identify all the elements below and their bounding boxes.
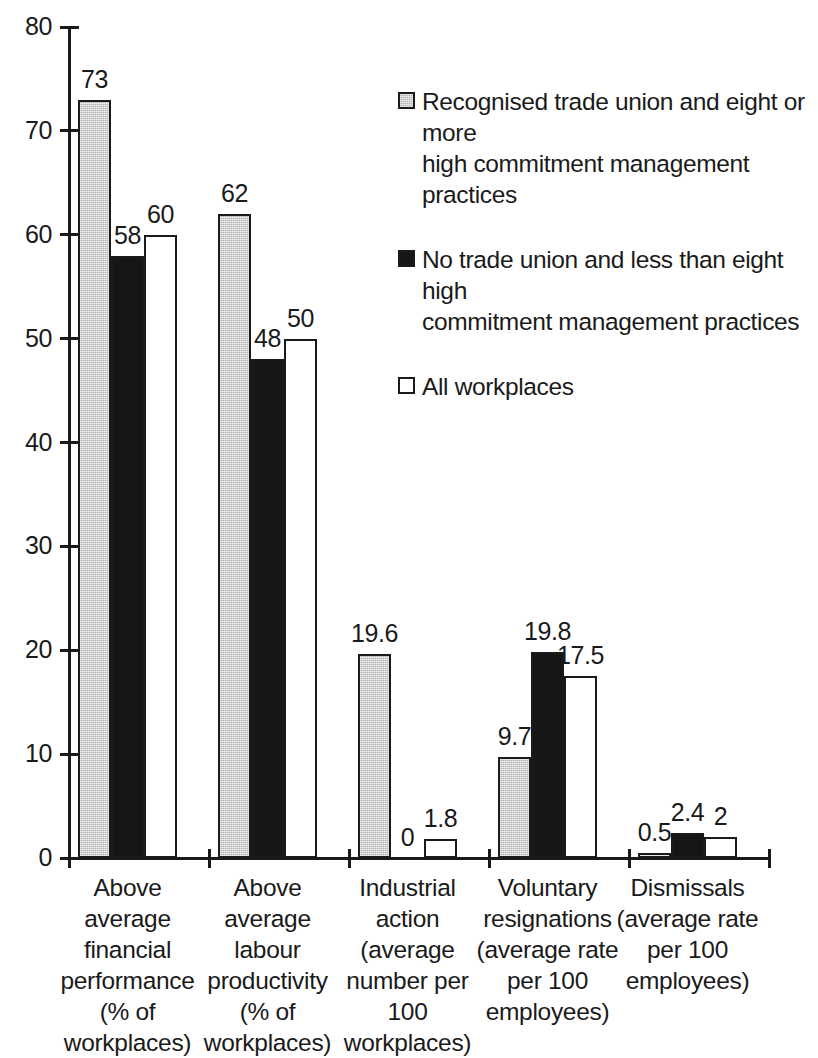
x-axis-category-label-line: Voluntary [468,872,628,903]
x-axis-category-label-line: productivity [188,965,348,996]
y-axis-tick [60,753,79,756]
y-axis-tick-label: 40 [8,430,52,455]
y-axis-tick-label: 0 [8,845,52,870]
y-axis-tick-label: 80 [8,14,52,39]
x-axis-category-label-line: per 100 [608,934,768,965]
x-axis-category-label-line: workplaces) [188,1027,348,1058]
x-axis-category-label-line: average [48,903,208,934]
legend-item-label: No trade union and less than eight highc… [422,244,814,337]
y-axis-tick-label-wrap: 10 [0,741,52,767]
y-axis-tick [60,337,79,340]
legend-item-label: All workplaces [422,371,574,402]
x-axis-category-label-line: employees) [608,965,768,996]
x-axis-group-tick [628,849,631,868]
bar-value-label: 1.8 [396,806,486,831]
x-axis-category-label-line: (average rate [608,903,768,934]
x-axis-category-label-line: average [188,903,348,934]
legend-swatch-white-icon [398,377,415,394]
x-axis-category-label-line: resignations [468,903,628,934]
legend-swatch-black-icon [398,250,415,267]
bar [498,757,531,858]
bar [564,676,597,858]
bar-value-label: 17.5 [536,643,626,668]
x-axis-category-label: Aboveaveragefinancialperformance(% ofwor… [48,872,208,1058]
y-axis-tick [60,26,79,29]
legend-swatch-grey-icon [398,92,415,109]
legend-item[interactable]: Recognised trade union and eight or more… [398,86,814,210]
legend-item-label-line: practices [422,179,814,210]
bar [638,853,671,858]
y-axis-tick-label-wrap: 80 [0,14,52,40]
x-axis-category-label-line: employees) [468,996,628,1027]
bar-value-label: 19.6 [330,621,420,646]
x-axis-category-label: Industrialaction(averagenumber per100wor… [328,872,488,1058]
bar-value-label: 62 [190,181,280,206]
x-axis-category-label-line: (average rate [468,934,628,965]
bar [531,652,564,858]
x-axis-category-label-line: workplaces) [328,1027,488,1058]
bar [251,359,284,858]
x-axis-group-tick [488,849,491,868]
y-axis-tick-label: 20 [8,637,52,662]
y-axis-tick [60,441,79,444]
y-axis-tick-label-wrap: 0 [0,845,52,871]
y-axis-tick [60,129,79,132]
legend-item-label-line: high commitment management [422,148,814,179]
legend-item[interactable]: All workplaces [398,371,814,402]
x-axis-group-tick [348,849,351,868]
x-axis-category-label-line: Industrial [328,872,488,903]
x-axis-category-label: Voluntaryresignations(average rateper 10… [468,872,628,1027]
x-axis-category-label-line: (% of [48,996,208,1027]
x-axis-category-label-line: workplaces) [48,1027,208,1058]
legend-item-label-line: All workplaces [422,371,574,402]
x-axis-category-label: Aboveaveragelabourproductivity(% ofworkp… [188,872,348,1058]
y-axis-tick-label-wrap: 50 [0,326,52,352]
x-axis-category-label-line: (average [328,934,488,965]
x-axis-category-label-line: performance [48,965,208,996]
x-axis-category-label-line: (% of [188,996,348,1027]
y-axis-tick-label: 10 [8,741,52,766]
legend-item-label-line: No trade union and less than eight high [422,244,814,306]
bar [144,235,177,858]
legend-item-label-line: commitment management practices [422,306,814,337]
bar-value-label: 50 [256,306,346,331]
y-axis-tick-label: 30 [8,533,52,558]
x-axis-category-label: Dismissals(average rateper 100employees) [608,872,768,996]
legend-item[interactable]: No trade union and less than eight highc… [398,244,814,337]
y-axis-tick-label-wrap: 70 [0,118,52,144]
bar [111,256,144,858]
x-axis-group-tick [208,849,211,868]
x-axis-category-label-line: per 100 [468,965,628,996]
x-axis-group-tick [68,849,71,868]
x-axis-category-label-line: financial [48,934,208,965]
legend-item-label: Recognised trade union and eight or more… [422,86,814,210]
x-axis-category-label-line: labour [188,934,348,965]
legend-item-label-line: Recognised trade union and eight or more [422,86,814,148]
x-axis-category-label-line: Above [48,872,208,903]
bar [284,339,317,858]
bar [704,837,737,858]
bar [218,214,251,858]
y-axis-tick-label: 50 [8,326,52,351]
x-axis-category-label-line: Dismissals [608,872,768,903]
y-axis-tick [60,545,79,548]
chart-legend: Recognised trade union and eight or more… [398,86,814,402]
y-axis-tick-label: 70 [8,118,52,143]
bar [78,100,111,858]
x-axis-category-label-line: Above [188,872,348,903]
y-axis-tick-label-wrap: 30 [0,533,52,559]
x-axis-category-label-line: number per [328,965,488,996]
y-axis-tick-label-wrap: 60 [0,222,52,248]
x-axis-category-label-line: action [328,903,488,934]
bar-value-label: 73 [50,67,140,92]
y-axis-tick-label-wrap: 20 [0,637,52,663]
y-axis-tick-label: 60 [8,222,52,247]
x-axis-category-label-line: 100 [328,996,488,1027]
y-axis-tick-label-wrap: 40 [0,430,52,456]
bar-value-label: 9.7 [470,724,560,749]
y-axis-tick [60,649,79,652]
y-axis-tick [60,233,79,236]
bar-value-label: 2 [676,804,766,829]
x-axis-group-tick [768,849,771,868]
